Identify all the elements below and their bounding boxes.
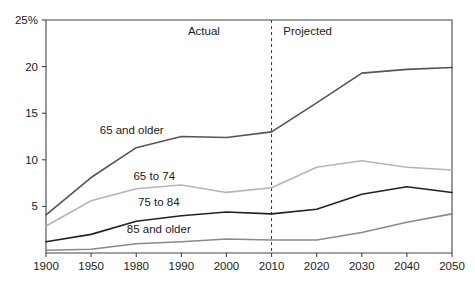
y-tick-label: 20 — [25, 61, 38, 73]
y-tick-label: 25% — [15, 14, 38, 26]
x-tick-label: 1900 — [33, 260, 59, 272]
x-tick-label: 1980 — [123, 260, 149, 272]
series-line — [46, 161, 452, 226]
line-chart: 25%2015105 19001950198019902000201020202… — [0, 0, 475, 288]
x-tick-label: 2010 — [259, 260, 285, 272]
x-tick-label: 1990 — [169, 260, 195, 272]
series-line — [46, 214, 452, 250]
x-tick-label: 2040 — [394, 260, 420, 272]
plot-border — [46, 20, 452, 253]
series-line — [46, 68, 452, 215]
zone-annotation: Actual — [188, 25, 220, 37]
x-axis-ticks: 1900195019801990200020102020203020402050 — [33, 253, 465, 272]
series-label: 85 and older — [127, 223, 191, 235]
series-labels: 65 and older65 to 7475 to 8485 and older — [100, 124, 191, 236]
series-label: 65 and older — [100, 124, 164, 136]
x-tick-label: 2050 — [439, 260, 465, 272]
series-lines — [46, 68, 452, 251]
y-tick-label: 10 — [25, 154, 38, 166]
zone-annotations: ActualProjected — [188, 25, 332, 37]
y-axis-ticks: 25%2015105 — [15, 14, 46, 212]
zone-annotation: Projected — [283, 25, 332, 37]
series-label: 65 to 74 — [133, 170, 175, 182]
series-label: 75 to 84 — [138, 196, 180, 208]
y-tick-label: 5 — [32, 200, 38, 212]
x-tick-label: 1950 — [78, 260, 104, 272]
chart-container: 25%2015105 19001950198019902000201020202… — [0, 0, 475, 288]
series-line — [46, 187, 452, 242]
x-tick-label: 2030 — [349, 260, 375, 272]
x-tick-label: 2000 — [214, 260, 240, 272]
y-tick-label: 15 — [25, 107, 38, 119]
plot-frame — [46, 20, 452, 253]
x-tick-label: 2020 — [304, 260, 330, 272]
